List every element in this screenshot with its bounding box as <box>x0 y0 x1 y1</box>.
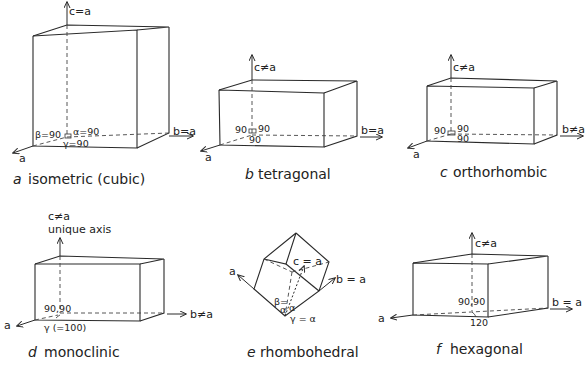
a-axis-arrow <box>17 320 35 326</box>
caption-name: isometric (cubic) <box>28 171 145 187</box>
gamma-angle: γ = α <box>290 313 316 324</box>
a-axis-label: a <box>19 152 26 165</box>
b-axis-label: b=a <box>361 124 384 137</box>
gamma-angle: γ=90 <box>63 138 89 149</box>
b-axis-label: b≠a <box>562 123 585 136</box>
beta-angle: 90 <box>434 125 446 136</box>
alpha-angle-1: α <box>280 304 286 315</box>
panel-orthorhombic: c≠a b≠a a 90 90 90 c orthorhombic <box>408 55 585 180</box>
c-axis-label: c=a <box>69 5 91 18</box>
gamma-angle: 90 <box>457 133 469 144</box>
b-axis-label: b=a <box>173 125 196 138</box>
alpha-angle: 90 <box>258 123 270 134</box>
a-axis-label: a <box>4 319 11 332</box>
caption-name: rhombohedral <box>260 344 359 360</box>
a-axis-arrow <box>391 315 413 318</box>
alpha-angle-2: α <box>289 302 295 313</box>
caption-letter: e <box>247 344 256 360</box>
panel-monoclinic: c≠a unique axis b≠a a 90,90 γ (=100) d m… <box>4 210 213 360</box>
angle-pair: 90,90 <box>458 296 485 307</box>
caption-letter: a <box>13 171 22 187</box>
a-axis-label: a <box>413 148 420 161</box>
c-axis-label: c≠a <box>453 61 475 74</box>
c-axis-label: c≠a <box>475 237 497 250</box>
a-axis-arrow <box>238 275 254 289</box>
caption-letter: f <box>436 341 443 357</box>
alpha-angle: α=90 <box>73 126 99 137</box>
caption-name: monoclinic <box>44 344 120 360</box>
beta-angle: β=90 <box>35 129 61 140</box>
b-axis-label: b = a <box>336 273 366 286</box>
panel-rhombohedral: c = a b = a a β= α α γ = α e rhombohedra… <box>229 233 366 360</box>
panel-tetragonal: c≠a b=a a 90 90 90 b tetragonal <box>201 55 384 182</box>
caption-name: tetragonal <box>258 166 331 182</box>
a-axis-label: a <box>229 265 236 278</box>
crystal-systems-diagram: c=a b=a a β=90 α=90 γ=90 a isometric (cu… <box>0 0 588 366</box>
caption-name: orthorhombic <box>453 164 547 180</box>
gamma-angle: 120 <box>470 317 488 328</box>
caption-name: hexagonal <box>450 341 523 357</box>
c-axis-label: c = a <box>293 255 322 268</box>
caption-letter: d <box>28 344 37 360</box>
angle-pair: 90,90 <box>44 303 71 314</box>
panel-hexagonal: c≠a b = a a 90,90 120 f hexagonal <box>378 233 582 357</box>
b-axis-label: b≠a <box>190 308 213 321</box>
beta-angle: 90 <box>235 124 247 135</box>
caption-letter: c <box>440 164 448 180</box>
a-axis-label: a <box>378 312 385 325</box>
panel-isometric: c=a b=a a β=90 α=90 γ=90 a isometric (cu… <box>13 2 196 187</box>
b-axis-label: b = a <box>552 296 582 309</box>
a-axis-label: a <box>205 151 212 164</box>
caption-letter: b <box>245 166 254 182</box>
c-axis-label: c≠a <box>254 61 276 74</box>
a-axis-arrow <box>408 141 427 148</box>
unique-axis-label: unique axis <box>48 223 112 236</box>
gamma-angle: 90 <box>249 134 261 145</box>
c-axis-label: c≠a <box>48 210 70 223</box>
gamma-angle: γ (=100) <box>44 322 86 333</box>
